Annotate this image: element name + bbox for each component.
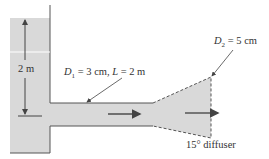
diffuser-diameter-label: D2 = 5 cm xyxy=(214,36,257,49)
diffuser-caption: 15° diffuser xyxy=(186,140,236,151)
tank-height-label: 2 m xyxy=(17,64,35,75)
leader-d1 xyxy=(87,78,122,102)
diffuser-fluid xyxy=(153,77,211,138)
d1-value: = 3 cm, xyxy=(75,66,112,77)
d2-symbol: D xyxy=(214,35,222,46)
d1-symbol: D xyxy=(64,66,72,77)
pipe-label: D1 = 3 cm, L = 2 m xyxy=(64,67,145,80)
leader-d2 xyxy=(212,50,233,76)
tank-fluid xyxy=(10,18,50,153)
length-value: = 2 m xyxy=(118,66,145,77)
d2-value: = 5 cm xyxy=(225,35,257,46)
